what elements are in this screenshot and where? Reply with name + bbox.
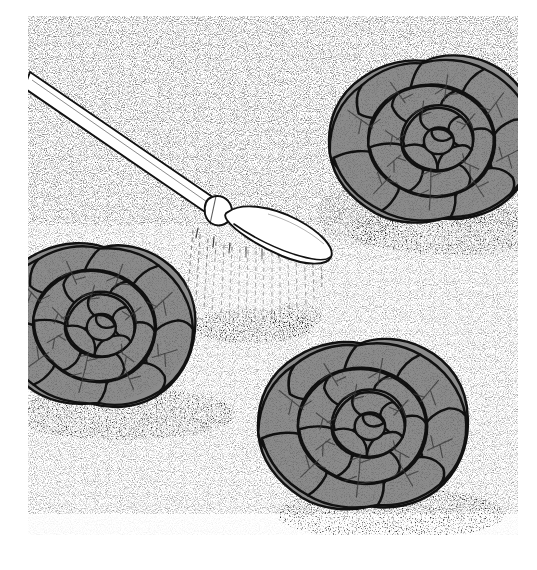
illustration-figure: .lf{fill:#8b8b8b;stroke:#121212;stroke-w… [0, 0, 537, 570]
illustration-plate: .lf{fill:#8b8b8b;stroke:#121212;stroke-w… [28, 16, 518, 535]
lettuce-watering-artwork: .lf{fill:#8b8b8b;stroke:#121212;stroke-w… [28, 16, 518, 535]
